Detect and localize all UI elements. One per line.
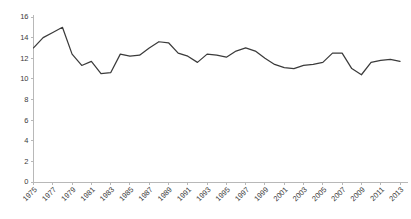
x-tick-label: 2007 [329, 185, 347, 203]
x-tick-label: 2003 [291, 185, 309, 203]
x-tick-label: 1989 [156, 185, 174, 203]
y-tick-label: 10 [20, 74, 28, 83]
y-tick-label: 4 [24, 136, 28, 145]
x-tick-label: 1987 [136, 185, 154, 203]
x-tick-label: 2005 [310, 185, 328, 203]
x-tick-label: 2013 [387, 185, 405, 203]
y-tick-label: 14 [20, 33, 28, 42]
x-tick-label: 1999 [252, 185, 270, 203]
y-axis-group: 1614121086420 [20, 12, 33, 186]
x-tick-label: 1993 [194, 185, 212, 203]
x-tick-label: 1995 [214, 185, 232, 203]
line-chart: 1614121086420 19751977197919811983198519… [0, 0, 411, 219]
y-tick-label: 2 [24, 157, 28, 166]
y-tick-labels: 1614121086420 [20, 12, 28, 186]
x-tick-label: 1981 [79, 185, 97, 203]
y-tick-label: 12 [20, 54, 28, 63]
series-line-1 [34, 27, 401, 74]
y-tick-label: 8 [24, 95, 28, 104]
y-tick-label: 16 [20, 12, 28, 21]
x-tick-label: 1983 [98, 185, 116, 203]
x-tick-label: 1979 [59, 185, 77, 203]
x-axis-group: 1975197719791981198319851987198919911993… [21, 182, 408, 203]
chart-canvas: 1614121086420 19751977197919811983198519… [0, 0, 411, 219]
x-tick-label: 2011 [368, 185, 386, 203]
x-tick-label: 1991 [175, 185, 193, 203]
x-tick-label: 1977 [40, 185, 58, 203]
plot-area [34, 27, 401, 74]
x-tick-label: 1975 [21, 185, 39, 203]
x-tick-label: 2009 [349, 185, 367, 203]
y-tick-label: 0 [24, 177, 28, 186]
x-tick-label: 1985 [117, 185, 135, 203]
x-tick-label: 1997 [233, 185, 251, 203]
y-tick-label: 6 [24, 116, 28, 125]
x-tick-label: 2001 [272, 185, 290, 203]
x-tick-labels: 1975197719791981198319851987198919911993… [21, 185, 406, 203]
